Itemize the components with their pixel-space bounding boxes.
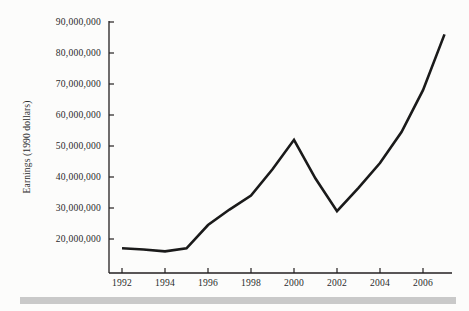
y-axis: 20,000,00030,000,00040,000,00050,000,000… — [56, 16, 114, 273]
chart-figure: 20,000,00030,000,00040,000,00050,000,000… — [0, 0, 469, 311]
y-axis-ticks — [109, 22, 114, 239]
y-axis-tick-label: 70,000,000 — [56, 78, 101, 89]
x-axis-tick-labels: 19921994199619982000200220042006 — [112, 277, 433, 288]
x-axis-tick-label: 2004 — [370, 277, 390, 288]
x-axis-tick-label: 2002 — [327, 277, 347, 288]
x-axis-tick-label: 1996 — [198, 277, 218, 288]
y-axis-tick-label: 60,000,000 — [56, 109, 101, 120]
y-axis-tick-label: 20,000,000 — [56, 233, 101, 244]
x-axis-tick-label: 1998 — [241, 277, 261, 288]
y-axis-tick-label: 80,000,000 — [56, 47, 101, 58]
earnings-series-line — [122, 34, 445, 251]
bottom-rule — [20, 297, 456, 304]
x-axis-tick-label: 1992 — [112, 277, 132, 288]
x-axis-tick-label: 2000 — [284, 277, 304, 288]
y-axis-tick-label: 30,000,000 — [56, 202, 101, 213]
y-axis-tick-label: 40,000,000 — [56, 171, 101, 182]
y-axis-tick-label: 50,000,000 — [56, 140, 101, 151]
x-axis-tick-label: 1994 — [155, 277, 175, 288]
x-axis-tick-label: 2006 — [413, 277, 433, 288]
x-axis-ticks — [122, 268, 423, 273]
line-chart: 20,000,00030,000,00040,000,00050,000,000… — [0, 0, 469, 311]
x-axis: 19921994199619982000200220042006 — [109, 268, 452, 288]
y-axis-tick-label: 90,000,000 — [56, 16, 101, 27]
y-axis-title: Earnings (1990 dollars) — [21, 101, 33, 194]
y-axis-tick-labels: 20,000,00030,000,00040,000,00050,000,000… — [56, 16, 101, 244]
